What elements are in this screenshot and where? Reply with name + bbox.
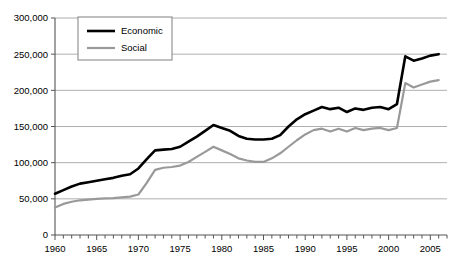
x-axis-tick-label: 1965 [86, 243, 107, 254]
x-axis-tick-label: 1970 [128, 243, 149, 254]
legend-box [78, 17, 172, 60]
x-axis-tick-label: 1985 [253, 243, 274, 254]
legend-label-social: Social [121, 42, 147, 53]
y-axis-tick-label: 150,000 [14, 121, 48, 132]
legend-label-economic: Economic [121, 25, 163, 36]
x-axis-tick-label: 1960 [44, 243, 65, 254]
y-axis-tick-label: 300,000 [14, 12, 48, 23]
series-line-social [55, 80, 439, 207]
x-axis-tick-label: 1990 [295, 243, 316, 254]
chart-canvas: 050,000100,000150,000200,000250,000300,0… [0, 0, 460, 271]
x-axis-tick-label: 1980 [211, 243, 232, 254]
y-axis-tick-label: 100,000 [14, 157, 48, 168]
y-axis-tick-label: 0 [43, 229, 48, 240]
y-axis-tick-label: 50,000 [19, 193, 48, 204]
series-line-economic [55, 54, 439, 194]
y-axis-tick-label: 250,000 [14, 49, 48, 60]
line-chart: 050,000100,000150,000200,000250,000300,0… [0, 0, 460, 271]
x-axis-tick-label: 1975 [170, 243, 191, 254]
x-axis-tick-label: 2005 [420, 243, 441, 254]
x-axis-tick-label: 1995 [336, 243, 357, 254]
y-axis-tick-label: 200,000 [14, 85, 48, 96]
x-axis-tick-label: 2000 [378, 243, 399, 254]
